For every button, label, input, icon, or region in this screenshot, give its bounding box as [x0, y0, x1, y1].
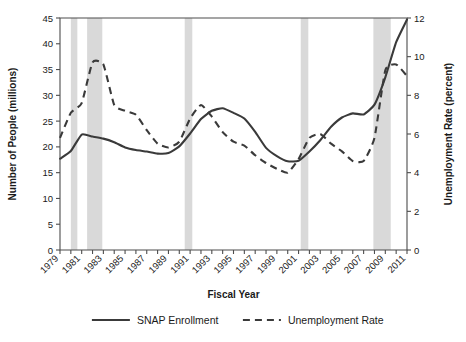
y-left-tick-label: 45: [42, 13, 53, 24]
y-left-tick-label: 25: [42, 116, 53, 127]
y-right-tick-label: 10: [414, 51, 425, 62]
y-left-tick-label: 0: [48, 245, 53, 256]
legend-label: SNAP Enrollment: [137, 314, 219, 326]
y-axis-right-title: Unemployment Rate (percent): [443, 63, 454, 205]
recession-band: [87, 18, 102, 250]
y-axis-left-title: Number of People (millions): [7, 68, 18, 201]
y-left-tick-label: 40: [42, 38, 53, 49]
y-right-tick-label: 8: [414, 90, 419, 101]
y-right-tick-label: 4: [414, 167, 419, 178]
y-left-tick-label: 30: [42, 90, 53, 101]
y-left-tick-label: 35: [42, 64, 53, 75]
dual-axis-line-chart: 1979198119831985198719891991199319951997…: [0, 0, 466, 342]
recession-band: [373, 18, 390, 250]
y-left-tick-label: 15: [42, 167, 53, 178]
y-right-tick-label: 12: [414, 13, 425, 24]
recession-band: [71, 18, 78, 250]
y-right-tick-label: 6: [414, 129, 419, 140]
legend-label: Unemployment Rate: [288, 314, 384, 326]
x-axis-title: Fiscal Year: [207, 289, 259, 300]
y-left-tick-label: 5: [48, 219, 53, 230]
y-right-tick-label: 0: [414, 245, 419, 256]
chart-container: 1979198119831985198719891991199319951997…: [0, 0, 466, 342]
y-left-tick-label: 10: [42, 193, 53, 204]
y-left-tick-label: 20: [42, 141, 53, 152]
recession-band: [301, 18, 309, 250]
y-right-tick-label: 2: [414, 206, 419, 217]
